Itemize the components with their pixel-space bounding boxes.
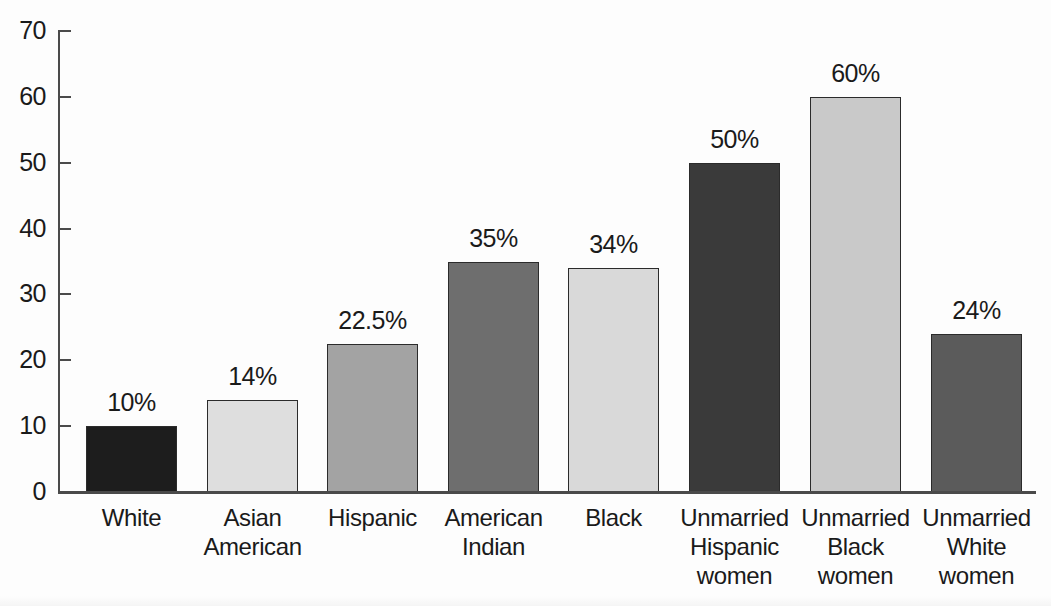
x-axis-category-label-line: Hispanic (311, 503, 434, 532)
x-axis-category-label: Black (552, 503, 675, 532)
x-axis-category-label-line: Black (552, 503, 675, 532)
x-axis-category-label-line: Indian (432, 532, 555, 561)
bar (327, 344, 418, 492)
x-axis-category-label: AsianAmerican (191, 503, 314, 561)
bar-value-label: 50% (664, 127, 805, 152)
bar-value-label: 10% (61, 390, 202, 415)
x-axis-category-label-line: Hispanic (673, 532, 796, 561)
bar (689, 163, 780, 492)
x-axis-category-label: UnmarriedBlackwomen (794, 503, 917, 590)
bar-value-label: 60% (785, 61, 926, 86)
bar-value-label: 24% (906, 298, 1047, 323)
bar (207, 400, 298, 492)
x-axis-category-label-line: American (191, 532, 314, 561)
x-axis-category-label: UnmarriedWhitewomen (915, 503, 1038, 590)
x-axis-category-label-line: White (915, 532, 1038, 561)
x-axis-category-label-line: women (915, 561, 1038, 590)
x-axis-category-label: White (70, 503, 193, 532)
x-axis-category-label-line: Black (794, 532, 917, 561)
bar-value-label: 34% (543, 232, 684, 257)
bar (810, 97, 901, 492)
x-axis-category-label-line: Unmarried (673, 503, 796, 532)
x-axis-category-label-line: American (432, 503, 555, 532)
bar-value-label: 22.5% (302, 308, 443, 333)
bar (448, 262, 539, 493)
x-axis-category-label: Hispanic (311, 503, 434, 532)
x-axis-category-label-line: Asian (191, 503, 314, 532)
x-axis-category-label-line: Unmarried (794, 503, 917, 532)
x-axis-category-label: UnmarriedHispanicwomen (673, 503, 796, 590)
x-axis-category-label: AmericanIndian (432, 503, 555, 561)
plot-area: 10%14%22.5%35%34%50%60%24% (0, 0, 1051, 492)
x-axis-category-label-line: Unmarried (915, 503, 1038, 532)
x-axis-category-label-line: women (794, 561, 917, 590)
page-edge-artifact (0, 596, 1051, 606)
bar (931, 334, 1022, 492)
bar (568, 268, 659, 492)
x-axis-category-label-line: women (673, 561, 796, 590)
bar-value-label: 14% (182, 364, 323, 389)
bar-chart: 706050403020100 10%14%22.5%35%34%50%60%2… (0, 0, 1051, 606)
x-axis-category-label-line: White (70, 503, 193, 532)
bar (86, 426, 177, 492)
x-axis-line (58, 491, 1036, 494)
